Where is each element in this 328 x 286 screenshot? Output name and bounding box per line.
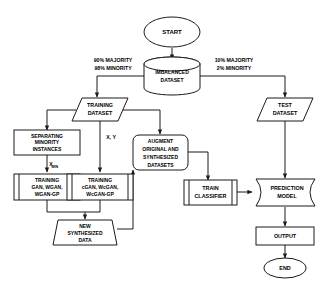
training-gan-label-line2: GAN, WGAN, — [31, 184, 63, 190]
node-test-dataset[interactable]: TEST DATASET — [257, 98, 313, 121]
augment-datasets-label-line3: SYNTHESIZED — [143, 154, 178, 160]
new-synthesized-data-label-line3: DATA — [78, 237, 92, 243]
training-gan-label-line1: TRAINING — [35, 177, 59, 183]
flowchart-canvas: START IMBALANCED DATASET TRAINING DATASE… — [0, 0, 328, 286]
node-training-cgan[interactable]: TRAINING cGAN, WcGAN, WcGAN-GP — [67, 174, 133, 200]
prediction-model-label-line1: PREDICTION — [270, 185, 303, 191]
separating-minority-label-line2: MINORITY — [35, 139, 60, 145]
test-dataset-label-line1: TEST — [278, 102, 292, 108]
node-imbalanced-dataset[interactable]: IMBALANCED DATASET — [144, 57, 200, 95]
xy-label: X, Y — [106, 134, 116, 140]
node-augment-datasets[interactable]: AUGMENT ORIGINAL AND SYNTHESIZED DATASET… — [133, 135, 188, 170]
node-new-synthesized-data[interactable]: NEW SYNTHESIZED DATA — [53, 220, 117, 245]
connector-training-cgan-to-synth — [85, 200, 100, 212]
training-dataset-label-line1: TRAINING — [87, 102, 113, 108]
connector-imbalanced-to-training-dataset — [97, 76, 144, 97]
node-train-classifier[interactable]: TRAIN CLASSIFIER — [184, 180, 237, 205]
edge-label-split-left: 90% MAJORITY 98% MINORITY — [94, 57, 133, 71]
imbalanced-dataset-label-line1: IMBALANCED — [155, 69, 189, 75]
end-label: END — [279, 265, 290, 271]
training-dataset-label-line2: DATASET — [88, 110, 113, 116]
connector-imbalanced-to-test-dataset — [200, 76, 285, 97]
imbalanced-dataset-label-line2: DATASET — [161, 77, 184, 83]
training-cgan-label-line2: cGAN, WcGAN, — [82, 184, 119, 190]
training-cgan-label-line1: TRAINING — [88, 177, 112, 183]
split-right-line1: 10% MAJORITY — [215, 57, 254, 63]
flowchart-diagram: START IMBALANCED DATASET TRAINING DATASE… — [0, 0, 328, 286]
connector-training-gan-to-synth — [47, 200, 85, 219]
augment-datasets-label-line4: DATASETS — [147, 162, 174, 168]
training-gan-label-line3: WGAN-GP — [35, 191, 60, 197]
split-left-line2: 98% MINORITY — [94, 65, 132, 71]
node-training-dataset[interactable]: TRAINING DATASET — [72, 98, 128, 121]
connector-training-dataset-to-augment — [120, 110, 160, 134]
edge-label-xy: X, Y — [106, 134, 116, 140]
split-left-line1: 90% MAJORITY — [94, 57, 133, 63]
output-label: OUTPUT — [274, 233, 297, 239]
separating-minority-label-line1: SEPARATING — [31, 133, 63, 139]
node-output[interactable]: OUTPUT — [256, 227, 314, 245]
test-dataset-label-line2: DATASET — [273, 110, 298, 116]
connector-augment-to-train-classifier — [188, 152, 208, 180]
node-end[interactable]: END — [264, 258, 306, 278]
augment-datasets-label-line2: ORIGINAL AND — [142, 146, 179, 152]
node-prediction-model[interactable]: PREDICTION MODEL — [256, 179, 315, 206]
augment-datasets-label-line1: AUGMENT — [148, 138, 173, 144]
connector-training-dataset-to-separating — [47, 110, 76, 130]
training-cgan-label-line3: WcGAN-GP — [86, 191, 114, 197]
new-synthesized-data-label-line2: SYNTHESIZED — [67, 230, 102, 236]
separating-minority-label-line3: INSTANCES — [33, 146, 62, 152]
prediction-model-label-line2: MODEL — [277, 193, 297, 199]
edge-label-split-right: 10% MAJORITY 2% MINORITY — [215, 57, 254, 71]
node-start[interactable]: START — [144, 17, 200, 47]
start-label: START — [162, 29, 182, 35]
new-synthesized-data-label-line1: NEW — [79, 223, 91, 229]
node-separating-minority[interactable]: SEPARATING MINORITY INSTANCES — [14, 130, 80, 155]
train-classifier-label-line2: CLASSIFIER — [194, 193, 226, 199]
edge-label-xmin: X MIN — [49, 161, 58, 169]
train-classifier-label-line1: TRAIN — [202, 185, 219, 191]
xmin-sub-label: MIN — [52, 165, 59, 169]
split-right-line2: 2% MINORITY — [217, 65, 252, 71]
